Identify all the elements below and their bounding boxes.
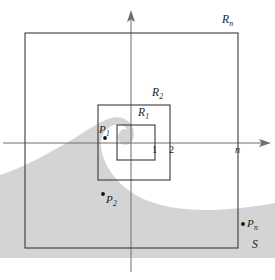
label-rn: Rn <box>222 14 233 26</box>
label-r1: R1 <box>138 107 149 119</box>
label-pn-subscript: n <box>254 223 258 232</box>
label-p1-subscript: 1 <box>106 129 110 138</box>
label-pn-letter: P <box>247 217 254 229</box>
label-r1-letter: R <box>138 106 145 118</box>
shaded-region-s <box>0 117 275 258</box>
mathematical-figure: Rn R2 R1 P1 P2 Pn S 1 2 n <box>0 0 275 280</box>
label-r2: R2 <box>152 87 163 99</box>
point-p2-dot <box>101 192 105 196</box>
label-p2-letter: P <box>106 193 113 205</box>
figure-canvas <box>0 0 275 280</box>
label-p1: P1 <box>99 124 109 135</box>
shaded-region-path <box>0 117 275 258</box>
tick-label-1: 1 <box>152 145 157 155</box>
label-rn-subscript: n <box>229 19 233 28</box>
label-r2-letter: R <box>152 86 159 98</box>
label-p2-subscript: 2 <box>113 199 117 208</box>
label-r2-subscript: 2 <box>159 92 163 101</box>
label-region-s: S <box>252 239 258 251</box>
label-rn-letter: R <box>222 13 229 25</box>
label-p2: P2 <box>106 194 116 205</box>
point-pn-dot <box>241 222 245 226</box>
axis-label-n: n <box>235 145 240 155</box>
label-pn: Pn <box>247 218 257 229</box>
label-p1-letter: P <box>99 123 106 135</box>
tick-label-2: 2 <box>169 145 174 155</box>
label-r1-subscript: 1 <box>145 112 149 121</box>
